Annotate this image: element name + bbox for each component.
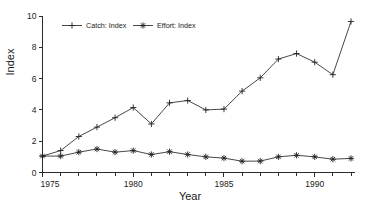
y-axis-tick-label: 6 xyxy=(32,74,37,84)
data-point xyxy=(76,149,82,155)
data-point xyxy=(312,154,318,160)
data-point xyxy=(148,151,154,157)
data-point xyxy=(94,146,100,152)
y-axis-tick-label: 8 xyxy=(32,42,37,52)
chart-canvas: 0246810 1975198019851990 Catch: IndexEff… xyxy=(0,0,367,208)
y-axis-tick-label: 0 xyxy=(32,168,37,178)
legend-label: Catch: Index xyxy=(86,21,127,30)
chart-background xyxy=(0,0,367,208)
y-axis-tick-label: 10 xyxy=(27,11,37,21)
data-point xyxy=(348,155,354,161)
x-axis-tick-label: 1980 xyxy=(124,179,143,189)
data-point xyxy=(221,155,227,161)
data-point xyxy=(293,152,299,158)
data-point xyxy=(330,156,336,162)
line-chart: 0246810 1975198019851990 Catch: IndexEff… xyxy=(0,0,367,208)
y-axis-title: Index xyxy=(4,48,16,75)
legend-marker-asterisk-icon xyxy=(140,22,146,28)
data-point xyxy=(257,158,263,164)
data-point xyxy=(130,147,136,153)
data-point xyxy=(39,153,45,159)
data-point xyxy=(239,158,245,164)
x-axis-tick-label: 1985 xyxy=(215,179,234,189)
data-point xyxy=(185,151,191,157)
legend-label: Effort: Index xyxy=(157,21,196,30)
x-axis-tick-label: 1975 xyxy=(41,179,60,189)
x-axis-title: Year xyxy=(179,190,202,202)
data-point xyxy=(58,153,64,159)
y-axis-tick-label: 2 xyxy=(32,136,37,146)
data-point xyxy=(203,154,209,160)
data-point xyxy=(112,149,118,155)
x-axis-tick-label: 1990 xyxy=(305,179,324,189)
data-point xyxy=(275,154,281,160)
data-point xyxy=(166,149,172,155)
y-axis-tick-label: 4 xyxy=(32,105,37,115)
